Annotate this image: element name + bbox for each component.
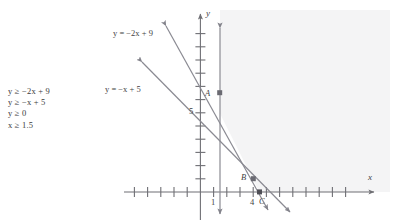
shaded-feasible-region <box>220 10 390 192</box>
point-label-c: C <box>259 196 265 206</box>
line-label-y-equals-minus-x-plus-5: y = −x + 5 <box>105 84 141 94</box>
x-tick-label-4: 4 <box>250 197 254 207</box>
point-label-b: B <box>241 172 246 182</box>
coordinate-graph <box>0 0 394 224</box>
y-axis-label: y <box>206 8 210 18</box>
figure-page: y ≥ −2x + 9 y ≥ −x + 5 y ≥ 0 x ≥ 1.5 <box>0 0 394 224</box>
x-axis-label: x <box>368 172 372 182</box>
x-tick-label-1: 1 <box>211 197 215 207</box>
point-a-marker <box>217 90 222 95</box>
point-label-a: A <box>205 88 210 98</box>
line-label-y-equals-minus-2x-plus-9: y = −2x + 9 <box>113 28 153 38</box>
point-c-marker <box>257 189 262 194</box>
point-b-marker <box>251 176 256 181</box>
y-tick-label-5: 5 <box>189 106 193 116</box>
